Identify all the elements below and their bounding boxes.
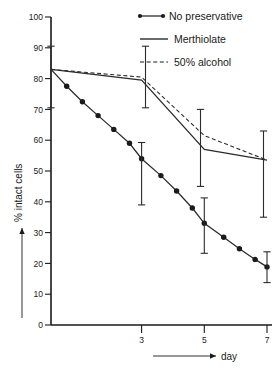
y-axis-title: % intact cells: [13, 164, 24, 222]
y-tick-label-100: 100: [29, 12, 43, 22]
legend-item-50-alcohol: 50% alcohol: [140, 56, 231, 68]
x-tick-label-7: 7: [265, 335, 270, 345]
y-tick-label-80: 80: [34, 74, 44, 84]
y-tick-label-90: 90: [34, 43, 44, 53]
legend-label-merthiolate: Merthiolate: [174, 33, 226, 45]
y-tick-label-10: 10: [34, 289, 44, 299]
y-tick-label-30: 30: [34, 228, 44, 238]
legend-label-50-alcohol: 50% alcohol: [174, 56, 231, 68]
series-no-preservative-markers: [64, 84, 270, 270]
x-tick-label-3: 3: [139, 335, 144, 345]
legend-item-merthiolate: Merthiolate: [140, 33, 226, 45]
y-tick-label-40: 40: [34, 197, 44, 207]
series-merthiolate-errorbars: [142, 46, 267, 217]
legend-item-no-preservative: No preservative: [138, 10, 243, 22]
y-tick-label-70: 70: [34, 105, 44, 115]
x-axis-title: day: [221, 351, 237, 362]
legend-marker-dot-left: [138, 14, 142, 18]
legend: No preservative Merthiolate 50% alcohol: [138, 10, 243, 68]
x-axis-ticks: [142, 325, 267, 333]
y-tick-label-20: 20: [34, 259, 44, 269]
y-tick-label-0: 0: [38, 320, 43, 330]
x-tick-label-5: 5: [202, 335, 207, 345]
legend-marker-dot-right: [161, 14, 165, 18]
y-axis-title-group: % intact cells: [13, 164, 25, 318]
y-tick-label-50: 50: [34, 166, 44, 176]
series-merthiolate-line: [51, 69, 267, 160]
x-axis-title-group: day: [153, 351, 237, 362]
legend-label-no-preservative: No preservative: [169, 10, 243, 22]
y-tick-label-60: 60: [34, 135, 44, 145]
y-axis-ticks: [45, 17, 51, 325]
line-chart: 100 90 80 70 60 50 40 30 20 10 0 3 5 7 d…: [0, 0, 279, 372]
series-50-alcohol-line: [51, 69, 267, 160]
chart-figure: 100 90 80 70 60 50 40 30 20 10 0 3 5 7 d…: [0, 0, 279, 372]
